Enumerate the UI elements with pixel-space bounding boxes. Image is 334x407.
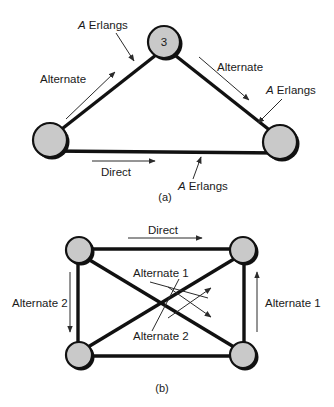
- leader-erlangs-upper-left: [116, 33, 134, 61]
- label-alternate-2-center: Alternate 2: [133, 330, 189, 342]
- label-erlangs-upper-left-a: A: [77, 19, 86, 31]
- node-top-label: 3: [161, 36, 167, 48]
- panel-b: Direct Alternate 1 Alternate 2 Alternate…: [12, 224, 321, 394]
- label-erlangs-bottom-rest: Erlangs: [186, 180, 228, 192]
- trunk-left-to-right-direct: [50, 151, 280, 153]
- label-alternate-1-center: Alternate 1: [133, 267, 189, 279]
- caption-b: (b): [155, 382, 168, 394]
- label-alternate-1-right: Alternate 1: [265, 297, 321, 309]
- label-erlangs-upper-right-a: A: [265, 84, 274, 96]
- leader-erlangs-upper-right: [258, 99, 282, 123]
- label-alternate-right: Alternate: [217, 61, 263, 73]
- caption-a: (a): [158, 191, 171, 203]
- label-alternate-left: Alternate: [40, 73, 86, 85]
- leader-erlangs-bottom: [193, 157, 201, 179]
- label-erlangs-bottom-a: A: [177, 180, 186, 192]
- label-alternate-2-left: Alternate 2: [12, 297, 68, 309]
- node-tr: [230, 237, 259, 266]
- panel-a: 3 A Erlangs Alternate Alternate A Erlang…: [33, 19, 316, 203]
- label-erlangs-upper-left-rest: Erlangs: [86, 19, 128, 31]
- node-br: [230, 342, 259, 371]
- node-tl: [66, 237, 95, 266]
- label-erlangs-upper-right-rest: Erlangs: [274, 84, 316, 96]
- label-erlangs-bottom: A Erlangs: [177, 180, 228, 192]
- figure-container: 3 A Erlangs Alternate Alternate A Erlang…: [0, 0, 334, 407]
- label-direct-b: Direct: [148, 224, 179, 236]
- label-erlangs-upper-left: A Erlangs: [77, 19, 128, 31]
- network-routing-diagram: 3 A Erlangs Alternate Alternate A Erlang…: [0, 0, 334, 407]
- label-erlangs-upper-right: A Erlangs: [265, 84, 316, 96]
- label-direct-a: Direct: [101, 166, 132, 178]
- node-right: [263, 125, 300, 162]
- trunk-left-to-top: [58, 55, 156, 132]
